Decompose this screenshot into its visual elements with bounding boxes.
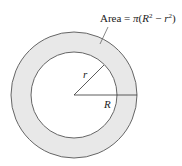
area-formula-label: Area = π(R2 − r2) bbox=[100, 12, 176, 25]
outer-radius-label: R bbox=[103, 98, 111, 110]
annulus-diagram: Area = π(R2 − r2) r R bbox=[0, 0, 182, 166]
inner-radius-label: r bbox=[83, 68, 88, 80]
